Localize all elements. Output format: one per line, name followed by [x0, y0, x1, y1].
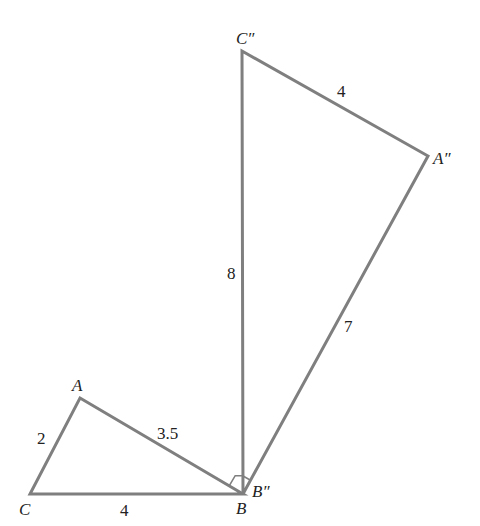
side-label-c2a2: 4	[337, 83, 346, 100]
vertex-label-a: A	[72, 377, 82, 394]
vertex-label-c-double-prime: C″	[236, 30, 254, 47]
side-label-b2c2: 8	[227, 265, 236, 282]
triangle-a2b2c2	[242, 51, 428, 494]
vertex-label-a-double-prime: A″	[433, 150, 450, 167]
side-label-b2a2: 7	[344, 318, 353, 335]
side-label-ca: 2	[37, 430, 46, 447]
side-label-cb: 4	[120, 502, 129, 519]
vertex-label-c: C	[19, 501, 30, 518]
similar-triangles-diagram: A B C A″ B″ C″ 2 3.5 4 4 8 7	[0, 0, 480, 526]
diagram-lines	[0, 0, 480, 526]
vertex-label-b-double-prime: B″	[252, 483, 269, 500]
vertex-label-b: B	[236, 500, 246, 517]
side-label-ab: 3.5	[157, 425, 178, 442]
right-angle-marker	[229, 476, 243, 486]
triangle-abc	[30, 398, 243, 494]
